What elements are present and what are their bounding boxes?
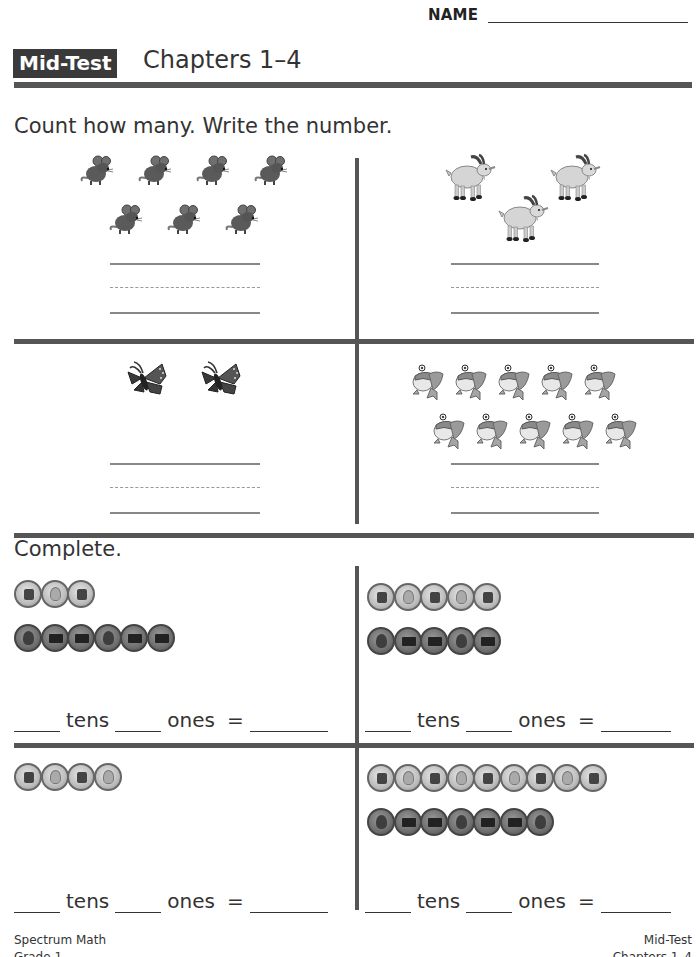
mouse-icon — [107, 203, 143, 235]
equals-sign: = — [578, 708, 595, 732]
penny-back-icon — [473, 627, 501, 655]
tens-label: tens — [66, 889, 109, 913]
dime-front-icon — [553, 764, 581, 792]
dime-front-icon — [447, 583, 475, 611]
equals-sign: = — [227, 889, 244, 913]
mid-test-badge: Mid-Test — [13, 49, 117, 78]
footer-test-name: Mid-Test — [644, 933, 692, 947]
dime-front-icon — [94, 763, 122, 791]
penny-back-icon — [41, 624, 69, 652]
goat-icon — [496, 194, 552, 244]
tens-label: tens — [66, 708, 109, 732]
penny-back-icon — [67, 624, 95, 652]
mouse-icon — [194, 154, 230, 186]
answer-line-mid-goats — [451, 287, 599, 288]
equation-row-a: tens ones = — [14, 708, 328, 732]
mouse-icon — [78, 154, 114, 186]
total-blank-d[interactable] — [601, 897, 671, 913]
name-label: NAME — [428, 6, 478, 24]
answer-line-top-butterflies[interactable] — [110, 463, 260, 465]
footer-publisher: Spectrum Math — [14, 933, 106, 947]
goat-icon — [548, 153, 604, 203]
penny-back-icon — [120, 624, 148, 652]
tens-label: tens — [417, 708, 460, 732]
frog-icon — [538, 360, 576, 400]
dime-front-icon — [394, 764, 422, 792]
dime-back-icon — [14, 580, 42, 608]
answer-line-bottom-goats — [451, 312, 599, 314]
grid-divider-vertical-2 — [355, 566, 359, 910]
ones-label: ones — [167, 889, 215, 913]
penny-front-icon — [94, 624, 122, 652]
answer-line-mid-frogs — [451, 487, 599, 488]
frog-icon — [581, 360, 619, 400]
frog-icon — [602, 409, 640, 449]
answer-line-bottom-mice — [110, 312, 260, 314]
total-blank-a[interactable] — [250, 716, 328, 732]
dime-back-icon — [14, 763, 42, 791]
ones-blank-a[interactable] — [115, 716, 161, 732]
tens-blank-b[interactable] — [365, 716, 411, 732]
answer-line-top-mice[interactable] — [110, 263, 260, 265]
footer-chapters: Chapters 1–4 — [613, 950, 692, 957]
frog-icon — [559, 409, 597, 449]
penny-front-icon — [367, 627, 395, 655]
page-title: Chapters 1–4 — [143, 46, 302, 74]
penny-front-icon — [447, 627, 475, 655]
ones-label: ones — [167, 708, 215, 732]
dime-back-icon — [420, 764, 448, 792]
dime-front-icon — [500, 764, 528, 792]
answer-line-top-frogs[interactable] — [451, 463, 599, 465]
equals-sign: = — [227, 708, 244, 732]
dime-front-icon — [447, 764, 475, 792]
answer-line-bottom-frogs — [451, 512, 599, 514]
ones-label: ones — [518, 889, 566, 913]
dime-front-icon — [41, 580, 69, 608]
penny-front-icon — [14, 624, 42, 652]
dime-front-icon — [394, 583, 422, 611]
penny-back-icon — [500, 808, 528, 836]
ones-blank-b[interactable] — [466, 716, 512, 732]
frog-icon — [409, 360, 447, 400]
frog-icon — [516, 409, 554, 449]
equation-row-d: tens ones = — [365, 889, 671, 913]
frog-icon — [495, 360, 533, 400]
butterfly-icon — [122, 360, 170, 400]
answer-line-mid-butterflies — [110, 487, 260, 488]
tens-blank-c[interactable] — [14, 897, 60, 913]
mouse-icon — [223, 203, 259, 235]
dime-back-icon — [367, 764, 395, 792]
penny-back-icon — [420, 808, 448, 836]
dime-back-icon — [473, 764, 501, 792]
grid-divider-horizontal-2 — [14, 743, 694, 748]
dime-back-icon — [367, 583, 395, 611]
tens-blank-d[interactable] — [365, 897, 411, 913]
dime-back-icon — [526, 764, 554, 792]
goat-icon — [443, 153, 499, 203]
tens-label: tens — [417, 889, 460, 913]
butterfly-icon — [196, 360, 244, 400]
ones-blank-c[interactable] — [115, 897, 161, 913]
frog-icon — [473, 409, 511, 449]
tens-blank-a[interactable] — [14, 716, 60, 732]
answer-line-top-goats[interactable] — [451, 263, 599, 265]
answer-line-bottom-butterflies — [110, 512, 260, 514]
name-input-line[interactable] — [488, 22, 688, 23]
complete-instruction: Complete. — [14, 537, 122, 561]
penny-back-icon — [394, 808, 422, 836]
penny-back-icon — [420, 627, 448, 655]
dime-back-icon — [420, 583, 448, 611]
penny-front-icon — [447, 808, 475, 836]
penny-back-icon — [473, 808, 501, 836]
grid-divider-horizontal-1 — [14, 339, 694, 344]
ones-blank-d[interactable] — [466, 897, 512, 913]
header-rule — [14, 82, 692, 88]
penny-back-icon — [394, 627, 422, 655]
total-blank-c[interactable] — [250, 897, 328, 913]
total-blank-b[interactable] — [601, 716, 671, 732]
frog-icon — [452, 360, 490, 400]
mouse-icon — [165, 203, 201, 235]
dime-back-icon — [67, 580, 95, 608]
frog-icon — [430, 409, 468, 449]
dime-back-icon — [67, 763, 95, 791]
